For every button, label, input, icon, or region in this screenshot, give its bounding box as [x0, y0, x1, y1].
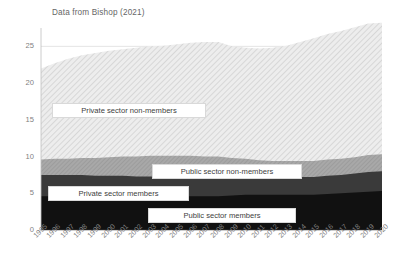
y-tick-label: 20 — [16, 79, 34, 87]
series-label-public-sector-members: Public sector members — [148, 208, 296, 223]
series-label-private-sector-non-members: Private sector non-members — [52, 103, 206, 118]
y-tick-label: 25 — [16, 42, 34, 50]
series-label-private-sector-members: Private sector members — [48, 186, 189, 201]
y-tick-label: 10 — [16, 153, 34, 161]
y-tick-label: 5 — [16, 189, 34, 197]
y-tick-label: 15 — [16, 116, 34, 124]
y-tick-label: 0 — [16, 226, 34, 234]
series-label-public-sector-non-members: Public sector non-members — [152, 164, 302, 179]
stacked-area-chart: Data from Bishop (2021) 0510152025 19951… — [0, 0, 400, 267]
plot-area — [0, 0, 400, 267]
